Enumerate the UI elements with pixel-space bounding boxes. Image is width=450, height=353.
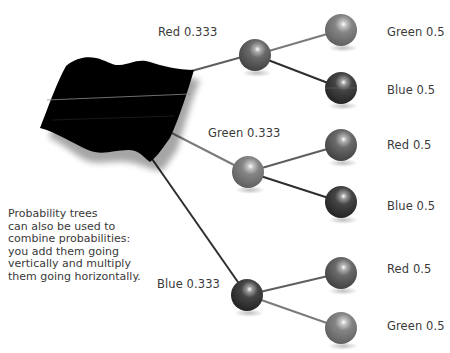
label-red-blue: Blue 0.5 [387,85,435,97]
caption-line: Probability trees [8,208,148,221]
node-green-red [325,129,357,161]
probability-tree-diagram [0,0,450,353]
label-green-level1: Green 0.333 [208,128,281,140]
edge-root-blue [150,156,240,285]
node-red-level1 [239,39,271,71]
node-blue-level1 [231,279,263,311]
label-blue-red: Red 0.5 [387,264,432,276]
caption-line: combine probabilities: [8,233,148,246]
caption-line: them going horizontally. [8,271,148,284]
explanation-caption: Probability trees can also be used to co… [8,208,148,284]
label-red-green: Green 0.5 [387,27,445,39]
root-bag [40,57,200,170]
label-green-blue: Blue 0.5 [387,201,435,213]
nodes-level2 [325,14,358,350]
label-red-level1: Red 0.333 [158,27,217,39]
label-green-red: Red 0.5 [387,140,432,152]
node-green-blue [325,186,357,218]
node-green-level1 [232,156,264,188]
node-red-green [325,14,357,46]
node-blue-green [325,312,357,344]
label-blue-level1: Blue 0.333 [157,279,220,291]
edge-root-red [188,57,242,72]
node-blue-red [325,257,357,289]
label-blue-green: Green 0.5 [387,321,445,333]
